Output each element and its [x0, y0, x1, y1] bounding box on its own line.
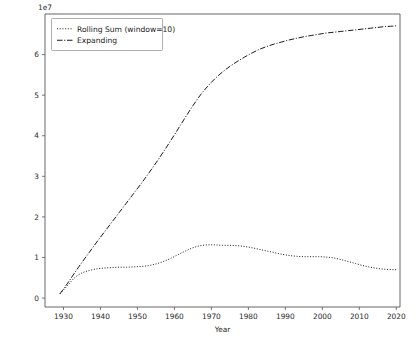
x-axis-label: Year [214, 325, 232, 334]
x-tick-label: 1930 [54, 312, 73, 321]
y-tick-label: 4 [34, 131, 39, 140]
legend-label: Rolling Sum (window=10) [77, 25, 175, 34]
series-lines [60, 26, 397, 294]
chart-legend: Rolling Sum (window=10)Expanding [52, 19, 176, 51]
y-tick-label: 3 [34, 172, 39, 181]
y-tick-label: 0 [34, 294, 39, 303]
y-tick-label: 5 [34, 91, 39, 100]
axes-frame [45, 14, 400, 307]
x-tick-label: 1980 [239, 312, 258, 321]
x-tick-label: 1950 [128, 312, 147, 321]
x-tick-label: 2000 [313, 312, 332, 321]
chart-figure: 1930194019501960197019801990200020102020… [0, 0, 416, 340]
y-tick-label: 6 [34, 50, 39, 59]
y-tick-label: 2 [34, 213, 39, 222]
series-line-1 [60, 26, 397, 294]
series-line-0 [60, 245, 397, 294]
x-tick-label: 1990 [276, 312, 295, 321]
axes-spines [45, 14, 400, 307]
legend-label: Expanding [77, 36, 117, 45]
x-tick-label: 2010 [350, 312, 369, 321]
x-tick-label: 2020 [387, 312, 406, 321]
y-axis-offset-text: 1e7 [38, 3, 52, 12]
x-tick-label: 1960 [165, 312, 184, 321]
axis-ticks: 1930194019501960197019801990200020102020… [34, 50, 406, 321]
legend-background [52, 19, 163, 51]
line-chart: 1930194019501960197019801990200020102020… [0, 0, 416, 340]
x-tick-label: 1970 [202, 312, 221, 321]
x-tick-label: 1940 [91, 312, 110, 321]
y-tick-label: 1 [34, 253, 39, 262]
